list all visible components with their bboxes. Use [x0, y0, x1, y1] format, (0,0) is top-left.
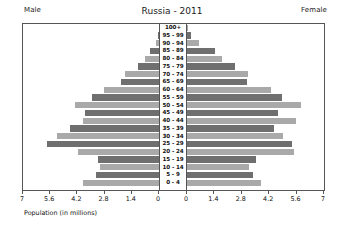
axis-tick — [268, 191, 269, 194]
male-bar — [138, 63, 159, 69]
female-bar-row — [187, 179, 324, 187]
age-group-label: 45 - 49 — [160, 109, 186, 117]
female-axis-title: Female — [301, 6, 327, 14]
female-bar-row — [187, 156, 324, 164]
female-bar-row — [187, 71, 324, 79]
axis-tick-label: 2.8 — [236, 195, 246, 203]
male-bar — [125, 71, 159, 77]
female-bar — [187, 156, 256, 162]
axis-tick — [131, 191, 132, 194]
axis-tick — [76, 191, 77, 194]
female-bar — [187, 110, 278, 116]
male-bar-row — [23, 32, 159, 40]
axis-tick-label: 7 — [321, 195, 325, 203]
age-group-label: 70 - 74 — [160, 71, 186, 79]
age-group-label: 0 - 4 — [160, 179, 186, 187]
female-bar — [187, 164, 249, 170]
female-bar-row — [187, 117, 324, 125]
male-bar — [145, 56, 159, 62]
male-bar — [104, 87, 159, 93]
male-bar-row — [23, 148, 159, 156]
age-group-label: 90 - 94 — [160, 40, 186, 48]
male-bar-row — [23, 71, 159, 79]
male-bar — [70, 125, 159, 131]
age-group-label: 85 - 89 — [160, 47, 186, 55]
female-bar-row — [187, 140, 324, 148]
male-bar — [121, 79, 159, 85]
female-bar — [187, 25, 188, 31]
male-bar-row — [23, 94, 159, 102]
age-group-label: 35 - 39 — [160, 125, 186, 133]
female-bar — [187, 118, 296, 124]
female-bar — [187, 71, 248, 77]
age-group-label: 95 - 99 — [160, 32, 186, 40]
male-bar-row — [23, 86, 159, 94]
female-bar — [187, 32, 191, 38]
female-x-axis: 01.42.84.25.67 — [186, 191, 325, 209]
male-bar-row — [23, 78, 159, 86]
male-bar-row — [23, 109, 159, 117]
age-group-labels: 100+95 - 9990 - 9485 - 8980 - 8475 - 797… — [159, 24, 187, 190]
male-bar — [78, 149, 159, 155]
female-bars-panel — [187, 24, 324, 190]
female-bar — [187, 180, 261, 186]
male-bar — [83, 118, 159, 124]
x-axis-caption: Population (in millions) — [24, 209, 97, 217]
female-bar — [187, 141, 292, 147]
female-bar — [187, 149, 294, 155]
chart-header: Male Russia - 2011 Female — [0, 6, 344, 20]
female-bar-row — [187, 78, 324, 86]
axis-tick-label: 1.4 — [126, 195, 136, 203]
age-group-label: 80 - 84 — [160, 55, 186, 63]
male-bar-row — [23, 63, 159, 71]
male-bar — [100, 164, 159, 170]
axis-tick — [213, 191, 214, 194]
axis-tick — [186, 191, 187, 194]
axis-tick-label: 0 — [156, 195, 160, 203]
age-group-label: 60 - 64 — [160, 86, 186, 94]
female-bar-row — [187, 109, 324, 117]
male-bar-row — [23, 102, 159, 110]
age-group-label: 10 - 14 — [160, 164, 186, 172]
male-x-axis: 75.64.22.81.40 — [22, 191, 158, 209]
male-bar-row — [23, 55, 159, 63]
age-group-label: 25 - 29 — [160, 140, 186, 148]
male-bar-row — [23, 40, 159, 48]
axis-tick — [296, 191, 297, 194]
female-bar — [187, 133, 283, 139]
age-group-label: 75 - 79 — [160, 63, 186, 71]
female-bar-row — [187, 47, 324, 55]
female-bar — [187, 94, 282, 100]
female-bar — [187, 102, 301, 108]
female-bar — [187, 79, 247, 85]
female-bar-row — [187, 125, 324, 133]
male-bar — [150, 48, 159, 54]
male-bar-row — [23, 164, 159, 172]
age-group-label: 5 - 9 — [160, 171, 186, 179]
axis-tick-label: 4.2 — [71, 195, 81, 203]
female-bar — [187, 40, 199, 46]
age-group-label: 55 - 59 — [160, 94, 186, 102]
male-bar-row — [23, 140, 159, 148]
male-bar — [75, 102, 160, 108]
female-bar-row — [187, 133, 324, 141]
male-bar-row — [23, 179, 159, 187]
female-bar — [187, 172, 253, 178]
axis-tick — [22, 191, 23, 194]
axis-tick-label: 2.8 — [99, 195, 109, 203]
male-bar — [96, 172, 159, 178]
age-group-label: 20 - 24 — [160, 148, 186, 156]
female-bar-row — [187, 24, 324, 32]
male-bar — [92, 94, 159, 100]
female-bar-row — [187, 164, 324, 172]
female-bar — [187, 125, 274, 131]
male-bar — [83, 180, 159, 186]
page-title: Russia - 2011 — [0, 6, 344, 16]
age-group-label: 50 - 54 — [160, 102, 186, 110]
female-bar — [187, 63, 235, 69]
age-group-label: 65 - 69 — [160, 78, 186, 86]
axis-tick — [49, 191, 50, 194]
male-bar — [85, 110, 159, 116]
age-group-label: 30 - 34 — [160, 133, 186, 141]
axis-tick-label: 0 — [184, 195, 188, 203]
